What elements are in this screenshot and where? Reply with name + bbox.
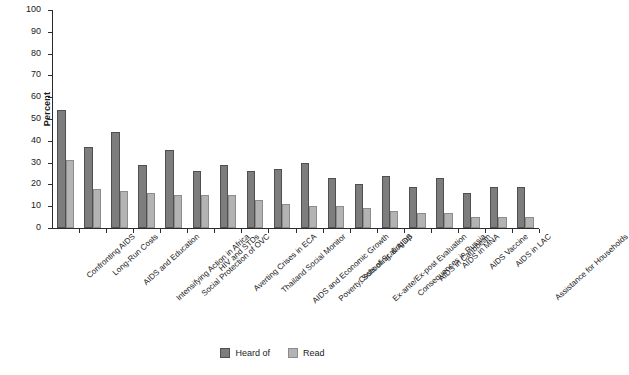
bar-read — [228, 195, 236, 228]
bar-group — [328, 10, 345, 228]
bar-group — [517, 10, 534, 228]
y-tick-label: 10 — [15, 200, 41, 211]
bar-group — [247, 10, 264, 228]
legend-swatch-icon — [288, 348, 298, 358]
bar-heard-of — [247, 171, 255, 228]
y-tick: 70 — [48, 75, 52, 76]
bar-group — [382, 10, 399, 228]
bar-heard-of — [193, 171, 201, 228]
bar-heard-of — [301, 163, 309, 228]
bar-heard-of — [436, 178, 444, 228]
y-tick: 20 — [48, 184, 52, 185]
legend-label: Heard of — [235, 348, 270, 358]
legend-item: Heard of — [220, 348, 270, 358]
legend-item: Read — [288, 348, 325, 358]
bar-heard-of — [274, 169, 282, 228]
y-tick-label: 20 — [15, 178, 41, 189]
y-tick: 30 — [48, 163, 52, 164]
bar-group — [463, 10, 480, 228]
bar-heard-of — [490, 187, 498, 228]
bar-group — [193, 10, 210, 228]
y-tick: 80 — [48, 54, 52, 55]
bar-heard-of — [355, 184, 363, 228]
y-tick: 40 — [48, 141, 52, 142]
bar-read — [525, 217, 533, 228]
bar-read — [498, 217, 506, 228]
bar-read — [120, 191, 128, 228]
y-tick: 100 — [48, 10, 52, 11]
bar-read — [147, 193, 155, 228]
bar-heard-of — [84, 147, 92, 228]
y-tick-label: 80 — [15, 48, 41, 59]
bar-group — [165, 10, 182, 228]
x-axis-label: Assistance for Households — [553, 232, 629, 302]
bar-read — [390, 211, 398, 228]
bar-group — [490, 10, 507, 228]
x-axis-labels: Confronting AIDSLong-Run CostsAIDS and E… — [0, 232, 545, 342]
legend-label: Read — [303, 348, 325, 358]
bar-read — [282, 204, 290, 228]
bar-read — [66, 160, 74, 228]
plot-area: 0102030405060708090100 — [52, 10, 539, 229]
chart-legend: Heard ofRead — [0, 348, 545, 358]
bar-group — [111, 10, 128, 228]
y-tick-label: 50 — [15, 113, 41, 124]
bar-group — [57, 10, 74, 228]
legend-swatch-icon — [220, 348, 230, 358]
bar-read — [444, 213, 452, 228]
y-tick: 0 — [48, 228, 52, 229]
bar-heard-of — [517, 187, 525, 228]
bar-read — [336, 206, 344, 228]
bar-read — [255, 200, 263, 228]
bar-heard-of — [220, 165, 228, 228]
y-tick: 60 — [48, 97, 52, 98]
y-axis-line — [52, 10, 53, 229]
y-tick: 10 — [48, 206, 52, 207]
bar-read — [471, 217, 479, 228]
y-tick-label: 100 — [15, 4, 41, 15]
bar-read — [417, 213, 425, 228]
bar-group — [138, 10, 155, 228]
bar-group — [274, 10, 291, 228]
bar-heard-of — [382, 176, 390, 228]
bar-read — [93, 189, 101, 228]
bar-heard-of — [165, 150, 173, 228]
bar-heard-of — [328, 178, 336, 228]
bar-group — [301, 10, 318, 228]
y-tick-label: 90 — [15, 26, 41, 37]
bar-group — [436, 10, 453, 228]
bar-read — [363, 208, 371, 228]
y-tick-label: 30 — [15, 157, 41, 168]
y-tick: 50 — [48, 119, 52, 120]
bar-group — [355, 10, 372, 228]
y-tick-label: 60 — [15, 91, 41, 102]
bar-read — [309, 206, 317, 228]
y-tick-label: 70 — [15, 69, 41, 80]
bar-heard-of — [409, 187, 417, 228]
bar-group — [409, 10, 426, 228]
y-tick: 90 — [48, 32, 52, 33]
bar-read — [201, 195, 209, 228]
bar-heard-of — [111, 132, 119, 228]
bar-group — [84, 10, 101, 228]
bar-heard-of — [138, 165, 146, 228]
bar-read — [174, 195, 182, 228]
y-tick-label: 40 — [15, 135, 41, 146]
bar-heard-of — [463, 193, 471, 228]
bar-group — [220, 10, 237, 228]
bar-heard-of — [57, 110, 65, 228]
